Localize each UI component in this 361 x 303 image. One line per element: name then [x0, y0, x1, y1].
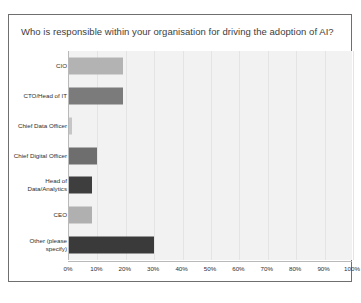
gridline: [325, 51, 326, 260]
bar: [69, 87, 123, 104]
chart-title: Who is responsible within your organisat…: [21, 26, 343, 37]
gridline: [97, 51, 98, 260]
gridline: [183, 51, 184, 260]
gridline: [126, 51, 127, 260]
plot-area: [68, 51, 352, 260]
gridline: [268, 51, 269, 260]
category-label: Head of Data/Analytics: [9, 178, 67, 193]
x-tick-label: 10%: [90, 265, 102, 272]
category-axis: CIOCTO/Head of ITChief Data OfficerChief…: [9, 51, 67, 260]
gridline: [296, 51, 297, 260]
x-tick-label: 0%: [64, 265, 73, 272]
value-axis: 0%10%20%30%40%50%60%70%80%90%100%: [68, 261, 352, 278]
gridline: [211, 51, 212, 260]
category-label: Chief Data Officer: [9, 122, 67, 130]
x-tick-label: 80%: [289, 265, 301, 272]
bar: [69, 147, 97, 164]
x-tick-label: 60%: [232, 265, 244, 272]
category-label: CTO/Head of IT: [9, 92, 67, 100]
bar: [69, 57, 123, 74]
category-label: CEO: [9, 211, 67, 219]
bar: [69, 117, 72, 134]
x-tick-label: 70%: [261, 265, 273, 272]
bar: [69, 237, 154, 254]
gridline: [353, 51, 354, 260]
category-label: Chief Digital Officer: [9, 152, 67, 160]
bar-chart: CIOCTO/Head of ITChief Data OfficerChief…: [9, 51, 352, 281]
x-tick-label: 40%: [175, 265, 187, 272]
category-label: Other (please specify): [9, 237, 67, 252]
gridline: [154, 51, 155, 260]
gridline: [239, 51, 240, 260]
x-tick-label: 30%: [147, 265, 159, 272]
chart-card: Who is responsible within your organisat…: [8, 14, 352, 282]
x-tick-label: 100%: [344, 265, 360, 272]
x-tick-label: 90%: [317, 265, 329, 272]
bar: [69, 207, 92, 224]
x-tick-label: 50%: [204, 265, 216, 272]
x-tick-label: 20%: [119, 265, 131, 272]
bar: [69, 177, 92, 194]
category-label: CIO: [9, 62, 67, 70]
